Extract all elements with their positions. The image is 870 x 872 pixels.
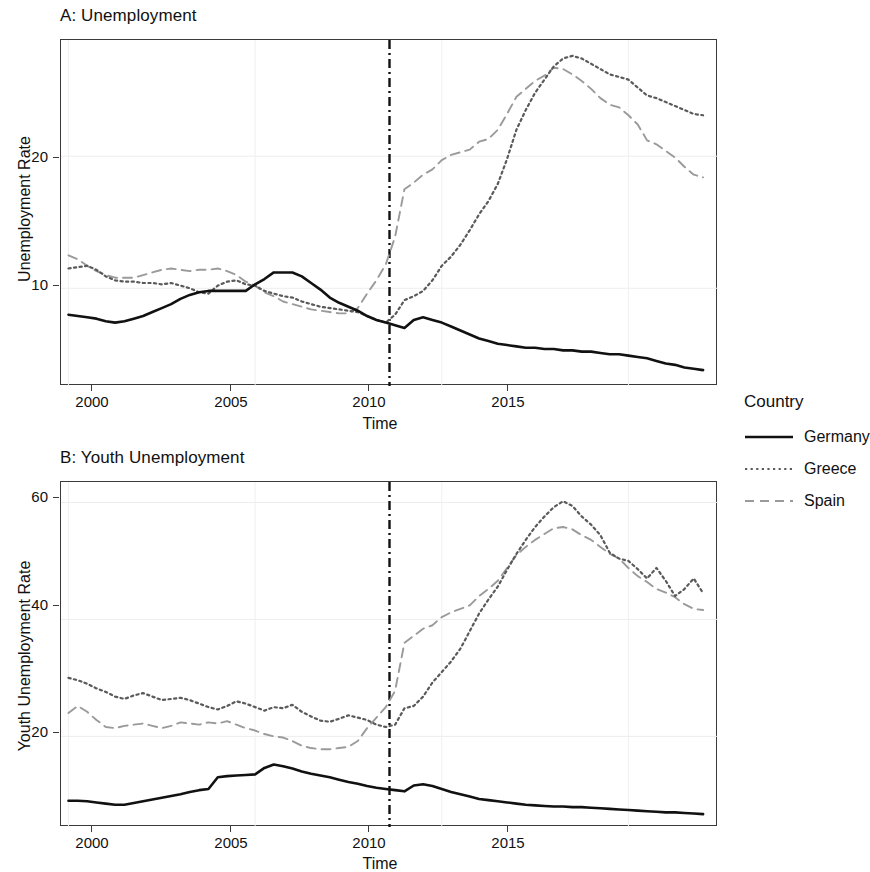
panel-a-y-tickmark-10 (53, 285, 59, 286)
panel-b-y-tickmark-20 (53, 732, 59, 733)
series-line-germany (68, 272, 703, 370)
legend-title: Country (744, 392, 870, 412)
panel-b-series-canvas (61, 482, 718, 827)
legend-key-dashed-icon (744, 494, 794, 508)
panel-a-y-tickmark-20 (53, 157, 59, 158)
panel-a-x-tickmark-2005 (230, 385, 231, 391)
panel-b-y-tickmark-40 (53, 605, 59, 606)
panel-a-title: A: Unemployment (60, 6, 197, 26)
panel-a-x-tick-2005: 2005 (195, 393, 267, 410)
legend-item-greece[interactable]: Greece (744, 456, 870, 482)
panel-b-x-tickmark-2015 (507, 826, 508, 832)
legend-key-dotted-icon (744, 462, 794, 476)
panel-b-y-tick-20: 20 (14, 723, 48, 740)
panel-a-x-tickmark-2015 (507, 385, 508, 391)
panel-b-x-tick-2010: 2010 (333, 834, 405, 851)
series-line-spain (68, 68, 703, 314)
panel-a-x-axis-label: Time (320, 415, 440, 433)
series-line-spain (68, 527, 703, 749)
panel-b-x-axis-label: Time (320, 855, 440, 872)
panel-a-x-tick-2010: 2010 (333, 393, 405, 410)
panel-b-x-tick-2000: 2000 (56, 834, 128, 851)
legend-item-germany[interactable]: Germany (744, 424, 870, 450)
series-line-germany (68, 764, 703, 814)
legend-item-label: Germany (804, 428, 870, 446)
panel-b-y-tickmark-60 (53, 497, 59, 498)
legend-item-spain[interactable]: Spain (744, 488, 870, 514)
panel-b-x-tickmark-2000 (91, 826, 92, 832)
panel-a-x-tick-2000: 2000 (56, 393, 128, 410)
series-line-greece (68, 56, 703, 323)
panel-b-plot-area (60, 481, 717, 826)
panel-a-y-tick-10: 10 (14, 276, 48, 293)
legend-item-label: Spain (804, 492, 845, 510)
legend-item-label: Greece (804, 460, 856, 478)
panel-b-y-tick-60: 60 (14, 488, 48, 505)
panel-a-plot-area (60, 39, 717, 385)
panel-b-x-tick-2015: 2015 (472, 834, 544, 851)
panel-b-y-tick-40: 40 (14, 596, 48, 613)
panel-b-x-tick-2005: 2005 (195, 834, 267, 851)
panel-b-title: B: Youth Unemployment (60, 448, 245, 468)
panel-a-y-tick-20: 20 (14, 148, 48, 165)
panel-a-x-tickmark-2000 (91, 385, 92, 391)
legend: Country GermanyGreeceSpain (744, 392, 870, 520)
series-line-greece (68, 501, 703, 727)
panel-a-series-canvas (61, 40, 718, 386)
panel-b-x-tickmark-2005 (230, 826, 231, 832)
legend-items: GermanyGreeceSpain (744, 424, 870, 514)
panel-a-x-tickmark-2010 (368, 385, 369, 391)
panel-a-x-tick-2015: 2015 (472, 393, 544, 410)
legend-key-solid-icon (744, 430, 794, 444)
panel-b-x-tickmark-2010 (368, 826, 369, 832)
